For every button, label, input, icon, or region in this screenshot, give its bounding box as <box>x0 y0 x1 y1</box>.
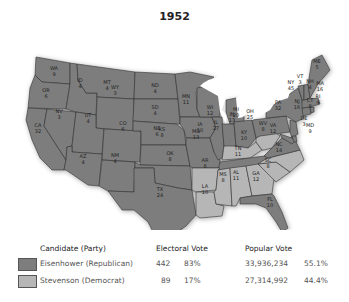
svg-text:8: 8 <box>221 177 224 183</box>
svg-text:8: 8 <box>308 103 311 109</box>
svg-text:10: 10 <box>267 202 273 208</box>
svg-text:12: 12 <box>207 110 213 116</box>
state-nj <box>290 120 298 138</box>
svg-text:6: 6 <box>121 126 124 132</box>
svg-text:4: 4 <box>81 159 84 165</box>
state-ks <box>140 145 190 166</box>
svg-text:16: 16 <box>317 86 323 92</box>
svg-text:4: 4 <box>153 110 156 116</box>
svg-text:16: 16 <box>294 104 300 110</box>
democrat-swatch <box>18 275 37 288</box>
state-wy <box>96 97 134 131</box>
svg-text:8: 8 <box>168 156 171 162</box>
svg-text:3: 3 <box>298 79 301 85</box>
svg-text:8: 8 <box>266 163 269 169</box>
svg-text:12: 12 <box>253 176 259 182</box>
header-candidate: Candidate (Party) <box>40 244 106 253</box>
svg-text:8: 8 <box>261 126 264 132</box>
svg-text:10: 10 <box>202 189 208 195</box>
state-fl <box>240 194 288 230</box>
svg-text:9: 9 <box>308 128 311 134</box>
svg-text:45: 45 <box>288 85 294 91</box>
svg-text:4: 4 <box>86 118 89 124</box>
svg-text:25: 25 <box>247 114 253 120</box>
svg-text:4: 4 <box>113 158 116 164</box>
svg-text:32: 32 <box>35 128 41 134</box>
chart-title: 1952 <box>0 10 349 23</box>
legend-row-eisenhower: Eisenhower (Republican) 442 83% 33,936,2… <box>18 258 338 272</box>
header-electoral: Electoral Vote <box>156 244 208 253</box>
svg-text:6: 6 <box>44 93 47 99</box>
us-electoral-map: WA9 OR6 CA32 NV3 ID4 MT4 WY3 UT4 CO6 AZ4… <box>0 25 349 230</box>
state-co <box>102 129 141 162</box>
svg-text:8: 8 <box>160 132 163 138</box>
svg-text:4: 4 <box>153 88 156 94</box>
svg-text:10: 10 <box>241 135 247 141</box>
svg-text:4: 4 <box>316 99 319 105</box>
svg-text:14: 14 <box>276 147 282 153</box>
svg-text:3: 3 <box>57 114 60 120</box>
svg-text:12: 12 <box>270 128 276 134</box>
svg-text:11: 11 <box>183 99 189 105</box>
svg-text:4: 4 <box>105 85 108 91</box>
svg-text:3: 3 <box>113 90 116 96</box>
svg-text:5: 5 <box>315 64 318 70</box>
header-popular: Popular Vote <box>245 244 292 253</box>
svg-text:13: 13 <box>229 117 235 123</box>
svg-text:4: 4 <box>78 83 81 89</box>
republican-swatch <box>18 258 37 271</box>
svg-text:11: 11 <box>233 175 239 181</box>
svg-text:4: 4 <box>308 84 311 90</box>
svg-text:11: 11 <box>235 151 241 157</box>
svg-text:27: 27 <box>213 125 219 131</box>
svg-text:32: 32 <box>275 105 281 111</box>
legend-row-stevenson: Stevenson (Democrat) 89 17% 27,314,992 4… <box>18 275 338 289</box>
svg-text:24: 24 <box>157 192 163 198</box>
svg-text:13: 13 <box>193 134 199 140</box>
svg-text:8: 8 <box>203 163 206 169</box>
state-nm <box>99 160 135 192</box>
svg-text:9: 9 <box>52 71 55 77</box>
